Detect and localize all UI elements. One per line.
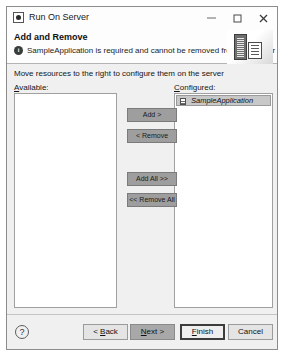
- run-on-server-dialog: Run On Server Add and Remove i SampleApp…: [6, 6, 278, 350]
- title-bar[interactable]: Run On Server: [7, 7, 277, 29]
- info-icon: i: [14, 46, 23, 55]
- window-title: Run On Server: [29, 11, 89, 23]
- add-button[interactable]: Add >: [127, 108, 177, 122]
- list-item[interactable]: SampleApplication: [176, 95, 271, 106]
- list-item-label: SampleApplication: [191, 96, 253, 105]
- next-button[interactable]: Next >: [130, 324, 175, 340]
- minimize-icon[interactable]: [199, 7, 225, 29]
- available-list-label: Available:: [14, 83, 49, 92]
- server-rack-icon: [227, 30, 273, 64]
- add-all-button[interactable]: Add All >>: [127, 172, 177, 186]
- maximize-icon[interactable]: [225, 7, 251, 29]
- configured-list-label: Configured:: [174, 83, 215, 92]
- remove-all-button[interactable]: << Remove All: [127, 193, 177, 207]
- configured-list[interactable]: SampleApplication: [174, 93, 273, 308]
- page-title: Add and Remove: [14, 32, 88, 42]
- finish-button[interactable]: Finish: [180, 324, 225, 340]
- remove-button[interactable]: < Remove: [127, 129, 177, 143]
- wizard-header: Add and Remove i SampleApplication is re…: [7, 29, 277, 64]
- main-content: Move resources to the right to configure…: [7, 64, 277, 314]
- rack-graphic: [234, 34, 247, 60]
- document-graphic: [248, 42, 262, 59]
- help-icon[interactable]: ?: [15, 325, 29, 339]
- cancel-button[interactable]: Cancel: [228, 324, 273, 340]
- back-button[interactable]: < Back: [83, 324, 128, 340]
- dialog-footer: ? < Back Next > Finish Cancel: [7, 314, 277, 349]
- application-file-icon: [180, 98, 186, 105]
- available-list[interactable]: [14, 93, 117, 308]
- close-icon[interactable]: [251, 7, 277, 29]
- instruction-text: Move resources to the right to configure…: [14, 69, 224, 78]
- server-app-icon: [13, 12, 24, 23]
